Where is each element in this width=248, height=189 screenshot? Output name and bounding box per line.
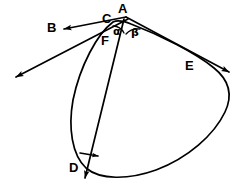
point-label-C: C: [102, 12, 111, 25]
point-label-E: E: [185, 59, 194, 72]
angle-label-beta: β: [131, 27, 139, 38]
figure-canvas: [0, 0, 248, 189]
point-label-F: F: [101, 34, 109, 47]
angle-label-alpha: α: [113, 26, 121, 37]
point-label-A: A: [118, 2, 127, 15]
point-label-B: B: [47, 21, 56, 34]
ray-A-through-E: [126, 17, 229, 72]
geometry-figure: A B C D E F α β: [0, 0, 248, 189]
point-label-D: D: [69, 161, 78, 174]
closed-convex-curve: [71, 21, 229, 177]
curve-direction-arrow: [80, 153, 98, 156]
